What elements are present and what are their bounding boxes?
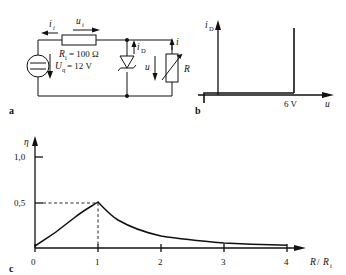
panel-b-zener-chart: i D u 6 V b [195,20,334,116]
input-current-label-sub: i [53,24,55,31]
input-current-label-var: i [49,19,52,29]
series-resistor-symbol [62,35,96,45]
panel-c-x-ticklabel-0: 0 [31,257,36,267]
panel-c-y-axis-arrowhead [32,136,38,146]
voltage-source-symbol [27,55,49,77]
panel-c-x-ticklabel-1: 1 [95,257,100,267]
panel-b-y-axis-label-sub: D [209,25,214,32]
panel-c-x-ticklabel-3: 3 [221,257,226,267]
panel-b-breakdown-tick-label: 6 V [284,99,298,109]
input-voltage-label-group: u i [76,16,84,28]
diode-current-label-var: i [137,42,140,52]
zener-diode-triangle [120,56,134,68]
panel-c-efficiency-chart: η 1,0 0,5 0 1 2 3 4 R / R i [9,136,332,274]
panel-c-x-axis-label-den: R [322,257,329,267]
series-resistor-label-var: R [58,49,65,59]
panel-c-x-ticklabel-2: 2 [158,257,163,267]
input-voltage-label-var: u [76,16,81,26]
series-resistor-label-sub: i [65,54,67,61]
input-voltage-arrow-head [92,28,100,33]
load-resistor-label: R [183,64,190,74]
junction-dot-top-middle [125,38,129,42]
panel-c-x-axis-label-group: R / R i [309,257,332,269]
diode-current-arrow-head [132,40,137,47]
junction-dot-bottom-middle [125,94,129,98]
panel-a-circuit: U q = 12 V R i = 100 Ω i i [9,16,190,116]
load-voltage-arrow-head [153,73,158,81]
figure-root: U q = 12 V R i = 100 Ω i i [0,0,346,275]
diode-current-label-sub: D [141,47,146,54]
panel-c-y-ticklabel-0: 0,5 [14,198,26,208]
panel-b-y-axis-arrowhead [215,20,221,30]
load-voltage-label: u [145,62,150,72]
panel-c-y-ticklabel-1: 1,0 [14,152,26,162]
panel-b-x-axis-arrowhead [322,92,334,98]
source-label-sub: q [62,66,66,73]
source-label-group: U q = 12 V [55,61,92,73]
panel-b-x-axis-label: u [325,99,330,109]
figure-svg: U q = 12 V R i = 100 Ω i i [0,0,346,275]
panel-tag-c: c [9,263,14,274]
series-resistor-label-value: = 100 Ω [69,49,99,59]
panel-c-efficiency-curve [35,202,287,246]
input-current-arrow-head [41,31,48,36]
series-resistor-label-group: R i = 100 Ω [58,49,99,61]
panel-c-x-axis-arrowhead [294,245,306,251]
input-current-label-group: i i [49,19,55,31]
load-current-arrow-head [170,38,175,45]
panel-b-y-axis-label-group: i D [205,20,214,32]
load-current-label: i [176,37,179,47]
panel-b-y-axis-label-var: i [205,20,208,30]
panel-c-y-axis-label: η [24,137,29,147]
panel-tag-b: b [195,105,201,116]
source-voltage-arrow-head [47,71,53,79]
panel-c-x-axis-label-num: R [309,257,316,267]
zener-diode-bar-bend-right [134,65,137,68]
panel-c-x-axis-label-slash: / [317,257,320,267]
panel-c-x-axis-label-den-sub: i [330,262,332,269]
zener-diode-bar-bend-left [118,68,121,71]
input-voltage-label-sub: i [82,21,84,28]
source-label-value: = 12 V [67,61,92,71]
load-resistor-symbol [166,54,178,82]
panel-c-x-ticklabel-4: 4 [284,257,289,267]
diode-current-label-group: i D [137,42,146,54]
panel-tag-a: a [9,105,14,116]
